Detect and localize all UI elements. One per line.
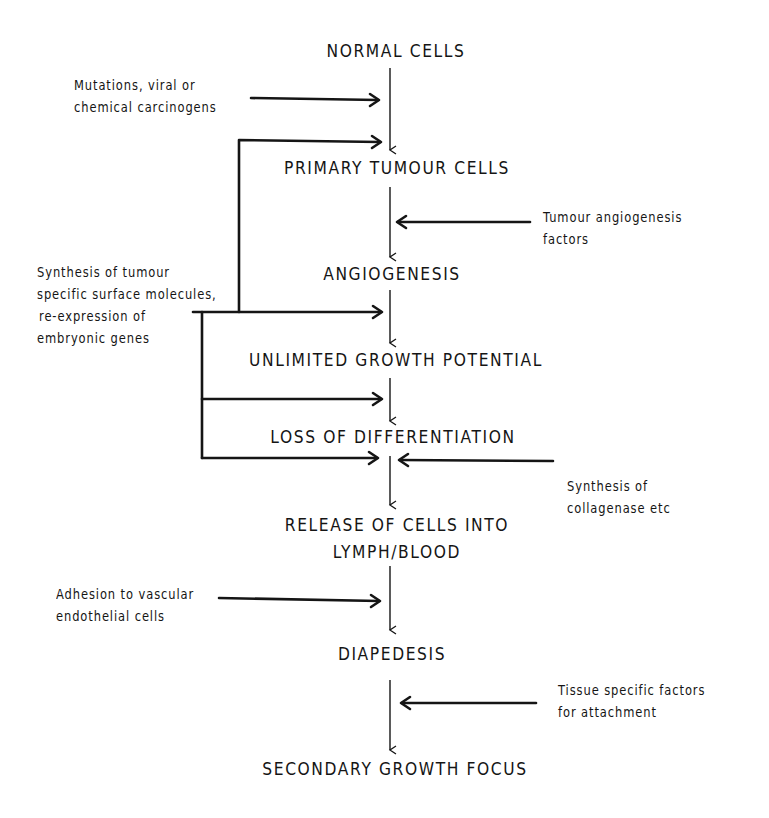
stage-label: ANGIOGENESIS <box>323 263 461 286</box>
note-line: Tissue specific factors <box>558 680 705 702</box>
note-line: factors <box>543 229 682 251</box>
note-line: collagenase etc <box>567 498 671 520</box>
note-line: re-expression of <box>37 306 217 328</box>
stage-primary-tumour-cells: PRIMARY TUMOUR CELLS <box>284 157 510 180</box>
stage-label: SECONDARY GROWTH FOCUS <box>262 758 527 781</box>
note-mutations: Mutations, viral or chemical carcinogens <box>74 75 217 119</box>
stage-label-line1: RELEASE OF CELLS INTO <box>285 514 509 537</box>
stage-secondary-growth-focus: SECONDARY GROWTH FOCUS <box>262 758 527 781</box>
collagenase-arrow-shaft <box>400 460 553 461</box>
note-line: embryonic genes <box>37 328 217 350</box>
note-line: Mutations, viral or <box>74 75 217 97</box>
note-line: specific surface molecules, <box>37 284 217 306</box>
stage-label: NORMAL CELLS <box>326 40 465 63</box>
stage-release-of-cells: RELEASE OF CELLS INTO LYMPH/BLOOD <box>285 514 509 563</box>
tumour-progression-flowchart: NORMAL CELLS PRIMARY TUMOUR CELLS ANGIOG… <box>0 0 769 818</box>
stage-loss-of-differentiation: LOSS OF DIFFERENTIATION <box>270 426 515 449</box>
stage-label: PRIMARY TUMOUR CELLS <box>284 157 510 180</box>
factor-arrows <box>193 94 553 709</box>
stage-label: UNLIMITED GROWTH POTENTIAL <box>249 349 543 372</box>
note-adhesion: Adhesion to vascular endothelial cells <box>56 584 194 628</box>
adhesion-arrow-shaft <box>219 598 379 601</box>
note-line: Synthesis of <box>567 476 671 498</box>
note-line: chemical carcinogens <box>74 97 217 119</box>
mutations-arrow-shaft <box>251 98 378 100</box>
stage-unlimited-growth-potential: UNLIMITED GROWTH POTENTIAL <box>249 349 543 372</box>
note-tumour-angiogenesis-factors: Tumour angiogenesis factors <box>543 207 682 251</box>
note-line: for attachment <box>558 702 705 724</box>
stage-angiogenesis: ANGIOGENESIS <box>323 263 461 286</box>
stage-diapedesis: DIAPEDESIS <box>338 643 446 666</box>
note-synthesis-surface-molecules: Synthesis of tumour specific surface mol… <box>37 262 217 349</box>
stage-label: LOSS OF DIFFERENTIATION <box>270 426 515 449</box>
stage-normal-cells: NORMAL CELLS <box>326 40 465 63</box>
stage-label: DIAPEDESIS <box>338 643 446 666</box>
note-synthesis-collagenase: Synthesis of collagenase etc <box>567 476 671 520</box>
note-line: Tumour angiogenesis <box>543 207 682 229</box>
note-line: Synthesis of tumour <box>37 262 217 284</box>
note-tissue-specific-factors: Tissue specific factors for attachment <box>558 680 705 724</box>
note-line: Adhesion to vascular <box>56 584 194 606</box>
note-line: endothelial cells <box>56 606 194 628</box>
stage-label-line2: LYMPH/BLOOD <box>285 540 509 563</box>
